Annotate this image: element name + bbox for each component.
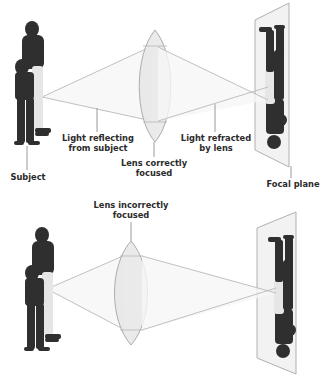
lens-focus-diagram: Subject Light reflecting from subject Le… xyxy=(0,0,332,391)
label-subject-text: Subject xyxy=(10,172,45,182)
ray-cone-outgoing-top xyxy=(158,47,268,121)
panel-incorrect xyxy=(24,212,296,374)
label-focal-plane-text: Focal plane xyxy=(266,179,319,189)
ray-cone-outgoing-bottom xyxy=(142,256,276,330)
label-light-refracted-line2: by lens xyxy=(176,143,256,153)
label-light-reflecting-line1: Light reflecting xyxy=(58,133,138,143)
label-light-reflecting: Light reflecting from subject xyxy=(58,133,138,153)
label-lens-correct-line2: focused xyxy=(114,168,194,178)
diagram-canvas xyxy=(0,0,332,391)
label-lens-incorrect-line2: focused xyxy=(86,210,176,220)
subject-figures-top xyxy=(14,21,51,145)
label-light-refracted: Light refracted by lens xyxy=(176,133,256,153)
label-light-reflecting-line2: from subject xyxy=(58,143,138,153)
label-light-refracted-line1: Light refracted xyxy=(176,133,256,143)
label-lens-correct: Lens correctly focused xyxy=(114,158,194,178)
label-subject: Subject xyxy=(8,172,48,182)
ray-cone-incoming-bottom xyxy=(47,256,125,330)
label-lens-correct-line1: Lens correctly xyxy=(114,158,194,168)
label-lens-incorrect-line1: Lens incorrectly xyxy=(86,200,176,210)
label-focal-plane: Focal plane xyxy=(260,179,326,189)
label-lens-incorrect: Lens incorrectly focused xyxy=(86,200,176,220)
